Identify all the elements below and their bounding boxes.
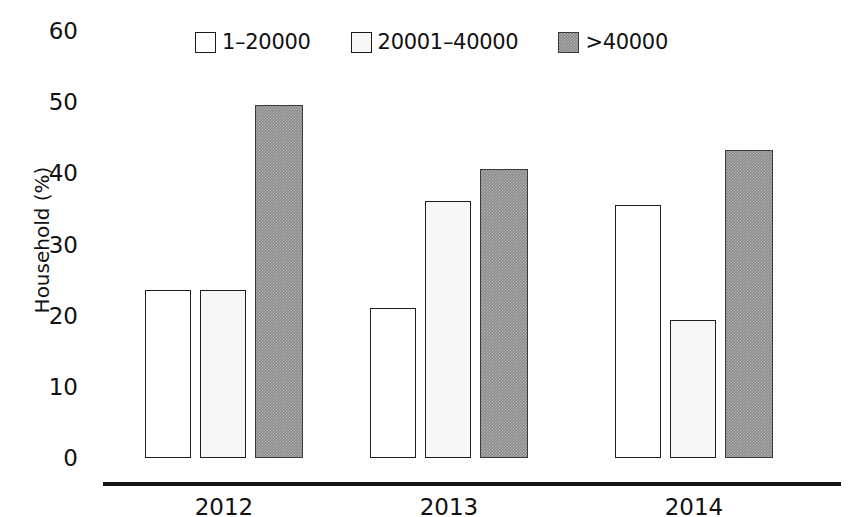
bar-2014-series3 bbox=[725, 150, 773, 458]
x-tick-2012: 2012 bbox=[144, 494, 304, 517]
y-tick-60: 60 bbox=[20, 20, 78, 43]
y-tick-40: 40 bbox=[20, 162, 78, 185]
bar-2013-series1 bbox=[370, 308, 416, 458]
bar-2012-series1 bbox=[145, 290, 191, 458]
y-tick-10: 10 bbox=[20, 376, 78, 399]
bar-2014-series2 bbox=[670, 320, 716, 458]
bar-2014-series1 bbox=[615, 205, 661, 458]
bar-2012-series3 bbox=[255, 105, 303, 458]
y-tick-30: 30 bbox=[20, 234, 78, 257]
x-axis-line bbox=[103, 482, 841, 486]
plot-area: 2012 2013 2014 bbox=[103, 24, 838, 458]
x-tick-2013: 2013 bbox=[369, 494, 529, 517]
y-tick-20: 20 bbox=[20, 305, 78, 328]
bar-2012-series2 bbox=[200, 290, 246, 458]
bar-chart: 1–20000 20001–40000 >40000 Household (%)… bbox=[0, 0, 851, 517]
bar-2013-series3 bbox=[480, 169, 528, 458]
x-tick-2014: 2014 bbox=[614, 494, 774, 517]
bar-2013-series2 bbox=[425, 201, 471, 458]
y-tick-0: 0 bbox=[20, 447, 78, 470]
y-tick-50: 50 bbox=[20, 91, 78, 114]
